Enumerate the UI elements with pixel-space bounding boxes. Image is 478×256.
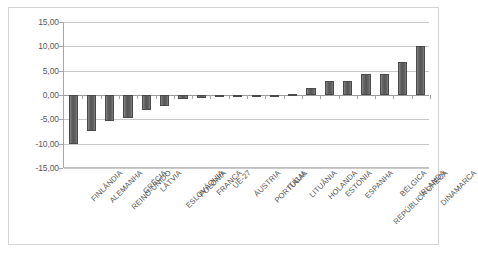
y-axis-label: 0,00 — [11, 91, 59, 100]
x-axis-tick — [393, 95, 394, 99]
y-axis-label: -10,00 — [11, 140, 59, 149]
bar — [105, 95, 114, 121]
x-axis-tick — [412, 95, 413, 99]
bar — [361, 74, 370, 95]
x-axis-tick — [156, 95, 157, 99]
y-axis-label: -5,00 — [11, 115, 59, 124]
x-axis-tick — [119, 95, 120, 99]
x-axis-label: ITÁLIA — [286, 169, 308, 191]
x-axis-tick — [375, 95, 376, 99]
chart-frame: 15,0010,005,000,00-5,00-10,00-15,00 FINL… — [8, 7, 439, 245]
bar — [380, 74, 389, 95]
x-axis-tick — [174, 95, 175, 99]
bar — [398, 62, 407, 95]
y-axis-label: 10,00 — [11, 42, 59, 51]
bar — [343, 81, 352, 95]
x-axis-tick — [192, 95, 193, 99]
y-axis-tick — [59, 168, 63, 169]
bar — [69, 95, 78, 144]
x-axis-tick — [137, 95, 138, 99]
bar — [142, 95, 151, 110]
bar — [87, 95, 96, 131]
bar — [306, 88, 315, 95]
x-axis-tick — [229, 95, 230, 99]
x-axis-tick — [82, 95, 83, 99]
x-axis-tick — [210, 95, 211, 99]
bar — [288, 94, 297, 96]
x-axis-tick — [284, 95, 285, 99]
bar — [215, 95, 224, 97]
x-axis-tick — [357, 95, 358, 99]
y-axis-label: 15,00 — [11, 18, 59, 27]
x-axis-tick — [302, 95, 303, 99]
x-axis-tick — [265, 95, 266, 99]
x-axis-tick — [339, 95, 340, 99]
plot-area — [63, 22, 429, 168]
y-axis-tick — [59, 46, 63, 47]
y-axis-label: 5,00 — [11, 67, 59, 76]
x-axis-category-labels: FINLÂNDIAALEMANHAREINO-UNIDOGRÉCIALÁTVIA… — [63, 169, 429, 247]
y-axis-tick — [59, 144, 63, 145]
x-axis-tick — [247, 95, 248, 99]
y-axis-label: -15,00 — [11, 164, 59, 173]
y-axis-tick — [59, 119, 63, 120]
bar — [160, 95, 169, 106]
y-axis-tick — [59, 95, 63, 96]
bar — [123, 95, 132, 118]
bar — [270, 95, 279, 97]
y-axis-tick — [59, 22, 63, 23]
bar — [252, 95, 261, 97]
bar — [416, 46, 425, 95]
x-axis-tick — [430, 95, 431, 99]
y-axis-tick — [59, 71, 63, 72]
x-axis-tick — [101, 95, 102, 99]
bar — [178, 95, 187, 99]
bar — [197, 95, 206, 98]
y-axis-tick-labels: 15,0010,005,000,00-5,00-10,00-15,00 — [9, 22, 59, 168]
bar — [233, 95, 242, 97]
bar — [325, 81, 334, 95]
x-axis-tick — [320, 95, 321, 99]
